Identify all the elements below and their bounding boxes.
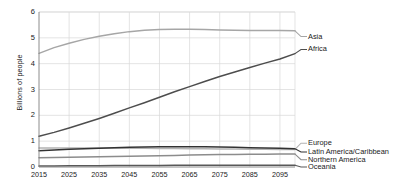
x-tick-label: 2065: [173, 171, 207, 178]
population-projection-chart: Billions of people 0123456 2015202520352…: [0, 0, 406, 192]
y-tick-label: 2: [13, 111, 35, 119]
x-tick-label: 2035: [82, 171, 116, 178]
y-tick-label: 6: [13, 8, 35, 16]
x-tick-label: 2095: [263, 171, 297, 178]
y-tick-label: 5: [13, 34, 35, 42]
series-label-asia: Asia: [308, 33, 322, 40]
series-label-europe: Europe: [308, 139, 332, 146]
x-tick-label: 2085: [233, 171, 267, 178]
x-tick-label: 2055: [142, 171, 176, 178]
y-tick-label: 4: [13, 60, 35, 68]
x-tick-label: 2075: [203, 171, 237, 178]
gridlines: [39, 12, 295, 167]
y-tick-label: 1: [13, 137, 35, 145]
x-tick-label: 2015: [22, 171, 56, 178]
x-tick-label: 2045: [112, 171, 146, 178]
series-label-africa: Africa: [308, 45, 327, 52]
plot-svg: [39, 12, 295, 167]
series-lines: [39, 29, 295, 166]
x-tick-label: 2025: [52, 171, 86, 178]
plot-area: [39, 12, 295, 167]
label-leader-lines: [295, 31, 307, 167]
series-label-oceania: Oceania: [308, 163, 336, 170]
y-tick-label: 3: [13, 86, 35, 94]
